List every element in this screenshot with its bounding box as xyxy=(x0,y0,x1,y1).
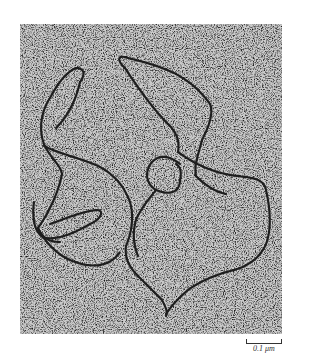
electron-micrograph xyxy=(20,24,282,334)
scale-bar-label: 0.1 μm xyxy=(246,344,282,353)
micrograph-texture xyxy=(20,24,282,334)
